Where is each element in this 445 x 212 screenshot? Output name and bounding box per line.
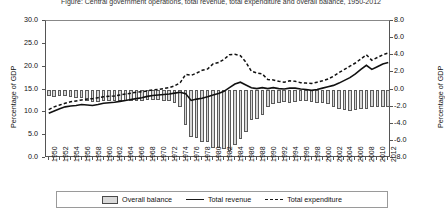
x-tick-label: 1996	[303, 146, 310, 162]
x-tick-label: 1968	[149, 146, 156, 162]
x-tick-label: 2000	[325, 146, 332, 162]
x-tick-mark	[360, 157, 361, 160]
right-tick-label: -2.0	[394, 102, 424, 110]
legend-label-total-revenue: Total revenue	[208, 195, 251, 204]
x-tick-mark	[190, 157, 191, 160]
x-tick-mark	[250, 157, 251, 160]
right-tick-label: 0.0	[394, 85, 424, 93]
x-tick-mark	[354, 157, 355, 160]
legend-label-total-expenditure: Total expenditure	[287, 195, 342, 204]
x-tick-mark	[218, 157, 219, 160]
x-tick-label: 2010	[379, 146, 386, 162]
x-tick-mark	[174, 157, 175, 160]
x-tick-label: 2002	[336, 146, 343, 162]
x-tick-mark	[267, 157, 268, 160]
x-tick-mark	[305, 157, 306, 160]
right-tick-label: -8.0	[394, 153, 424, 161]
x-tick-label: 1982	[226, 146, 233, 162]
right-tick-label: -6.0	[394, 136, 424, 144]
x-tick-mark	[163, 157, 164, 160]
solid-line-icon	[186, 199, 204, 200]
x-tick-mark	[64, 157, 65, 160]
x-tick-mark	[113, 157, 114, 160]
left-tick-label: 0.0	[4, 153, 38, 161]
x-tick-label: 1956	[84, 146, 91, 162]
x-tick-label: 1980	[215, 146, 222, 162]
plot-inner	[46, 21, 389, 156]
x-tick-mark	[349, 157, 350, 160]
x-tick-label: 1960	[106, 146, 113, 162]
x-tick-mark	[343, 157, 344, 160]
x-tick-mark	[245, 157, 246, 160]
x-tick-mark	[168, 157, 169, 160]
x-tick-mark	[53, 157, 54, 160]
right-tick-label: 4.0	[394, 50, 424, 58]
legend-label-overall-balance: Overall balance	[122, 195, 172, 204]
x-tick-mark	[283, 157, 284, 160]
legend-item-total-expenditure: Total expenditure	[265, 195, 342, 204]
x-tick-mark	[130, 157, 131, 160]
x-tick-label: 1988	[259, 146, 266, 162]
x-tick-mark	[157, 157, 158, 160]
x-tick-mark	[119, 157, 120, 160]
chart-legend: Overall balance Total revenue Total expe…	[56, 191, 388, 208]
left-tick-label: 20.0	[4, 62, 38, 70]
x-tick-mark	[239, 157, 240, 160]
x-tick-mark	[223, 157, 224, 160]
x-tick-label: 1984	[237, 146, 244, 162]
right-tick-label: 8.0	[394, 16, 424, 24]
x-tick-label: 1992	[281, 146, 288, 162]
x-tick-mark	[92, 157, 93, 160]
x-tick-label: 1976	[193, 146, 200, 162]
x-tick-label: 1952	[62, 146, 69, 162]
x-tick-mark	[75, 157, 76, 160]
x-tick-mark	[278, 157, 279, 160]
x-tick-mark	[382, 157, 383, 160]
x-tick-mark	[316, 157, 317, 160]
chart-title: Figure: Central government operations, t…	[0, 0, 442, 6]
x-tick-label: 1978	[204, 146, 211, 162]
legend-item-overall-balance: Overall balance	[102, 195, 172, 204]
x-tick-mark	[365, 157, 366, 160]
right-tick-label: 6.0	[394, 33, 424, 41]
x-tick-label: 1950	[51, 146, 58, 162]
x-tick-mark	[327, 157, 328, 160]
x-tick-label: 1962	[116, 146, 123, 162]
line-total-expenditure	[49, 53, 389, 110]
x-tick-mark	[300, 157, 301, 160]
left-tick-label: 15.0	[4, 85, 38, 93]
left-tick-label: 5.0	[4, 130, 38, 138]
plot-area	[45, 20, 390, 157]
x-tick-mark	[387, 157, 388, 160]
x-tick-mark	[272, 157, 273, 160]
legend-item-total-revenue: Total revenue	[186, 195, 251, 204]
x-tick-label: 1974	[182, 146, 189, 162]
x-tick-mark	[196, 157, 197, 160]
x-tick-label: 1990	[270, 146, 277, 162]
x-tick-label: 1954	[73, 146, 80, 162]
line-total-revenue	[49, 63, 389, 114]
x-tick-mark	[179, 157, 180, 160]
x-tick-mark	[376, 157, 377, 160]
x-tick-mark	[124, 157, 125, 160]
x-tick-mark	[207, 157, 208, 160]
x-tick-mark	[333, 157, 334, 160]
bar-swatch-icon	[102, 196, 118, 204]
x-tick-mark	[59, 157, 60, 160]
x-tick-label: 1998	[314, 146, 321, 162]
left-axis-title: Percentage of GDP	[9, 66, 18, 128]
right-tick-label: 2.0	[394, 67, 424, 75]
x-tick-label: 1972	[171, 146, 178, 162]
left-tick-label: 10.0	[4, 107, 38, 115]
dashed-line-icon	[265, 199, 283, 200]
x-tick-mark	[201, 157, 202, 160]
x-tick-mark	[294, 157, 295, 160]
x-tick-mark	[371, 157, 372, 160]
x-tick-label: 1986	[248, 146, 255, 162]
x-tick-mark	[108, 157, 109, 160]
left-tick-label: 30.0	[4, 16, 38, 24]
left-tick-mark	[42, 157, 45, 158]
x-tick-mark	[212, 157, 213, 160]
x-tick-label: 1970	[160, 146, 167, 162]
x-tick-mark	[103, 157, 104, 160]
